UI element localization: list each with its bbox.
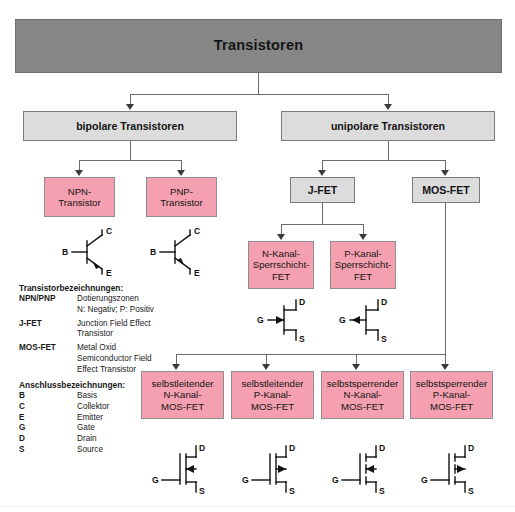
connector-bipolar-bus — [79, 160, 182, 161]
node-pnp-transistor-line2: Transistor — [160, 197, 202, 208]
p-channel-enhancement-mosfet-symbol: G D S — [421, 442, 485, 498]
node-p-kanal-sperrschicht-fet-line2: Sperrschicht- — [335, 259, 392, 270]
n-channel-enhancement-mosfet-symbol: G D S — [332, 442, 396, 498]
n-depl-mosfet-drain-label: D — [199, 443, 205, 453]
node-selbstsperrender-p-kanal-mos-fet[interactable]: selbstsperrender P-Kanal- MOS-FET — [410, 371, 493, 419]
node-j-fet-label: J-FET — [308, 184, 337, 197]
p-depl-mosfet-drain-label: D — [289, 443, 295, 453]
node-selbstsperrender-n-kanal-mos-fet[interactable]: selbstsperrender N-Kanal- MOS-FET — [321, 371, 404, 419]
arrow-to-n-kanal-sperrschicht-fet — [277, 234, 285, 240]
node-bipolare-transistoren-label: bipolare Transistoren — [76, 120, 184, 133]
node-pnp-transistor[interactable]: PNP- Transistor — [146, 177, 217, 217]
legend-pin-b-value: Basis — [77, 391, 179, 402]
p-jfet-gate-label: G — [339, 315, 346, 325]
arrow-to-npn — [75, 170, 83, 176]
legend-anschlussbezeichnungen-heading: Anschlussbezeichnungen: — [19, 380, 179, 390]
npn-transistor-symbol: B C E — [62, 222, 122, 282]
npn-collector-label: C — [106, 226, 112, 236]
node-unipolare-transistoren[interactable]: unipolare Transistoren — [281, 111, 495, 141]
arrow-to-selbstsperrender-p-kanal — [441, 364, 449, 370]
connector-jfet-child-down — [322, 203, 323, 225]
legend-row-j-fet-value: Junction Field Effect Transistor — [77, 319, 179, 341]
connector-root-bus — [130, 94, 389, 95]
legend-row-mos-fet-value: Metal Oxid Semiconductor Field Effect Tr… — [77, 343, 179, 375]
node-mos-fet-label: MOS-FET — [422, 184, 470, 197]
root-node-label: Transistoren — [214, 37, 303, 54]
legend-transistorbezeichnungen: Transistorbezeichnungen: NPN/PNP Dotieru… — [19, 283, 179, 376]
arrow-to-p-kanal-sperrschicht-fet — [359, 234, 367, 240]
legend-pin-d-value: Drain — [77, 434, 179, 445]
npn-base-label: B — [62, 247, 68, 257]
connector-mosfet-long-drop — [445, 203, 446, 355]
footer-divider — [0, 506, 515, 507]
legend-pin-e: E Emitter — [19, 413, 179, 424]
legend-pin-d: D Drain — [19, 434, 179, 445]
legend-row-j-fet: J-FET Junction Field Effect Transistor — [19, 319, 179, 341]
legend-pin-e-value: Emitter — [77, 413, 179, 424]
connector-mosfet-bus — [176, 354, 446, 355]
legend-pin-d-key: D — [19, 434, 77, 445]
n-jfet-gate-label: G — [257, 315, 264, 325]
node-selbstsperrender-n-kanal-mos-fet-line3: MOS-FET — [341, 401, 384, 412]
node-bipolare-transistoren[interactable]: bipolare Transistoren — [23, 111, 237, 141]
n-enh-mosfet-gate-label: G — [332, 475, 339, 485]
legend-row-j-fet-v1: Junction Field Effect — [77, 319, 179, 330]
node-selbstsperrender-p-kanal-mos-fet-line3: MOS-FET — [430, 401, 473, 412]
connector-unipolar-down — [388, 141, 389, 161]
connector-unipolar-bus — [322, 160, 446, 161]
legend-row-npn-pnp-v1: Dotierungszonen — [77, 294, 179, 305]
node-j-fet[interactable]: J-FET — [290, 177, 355, 203]
node-p-kanal-sperrschicht-fet-line3: FET — [354, 271, 372, 282]
legend-pin-c: C Collektor — [19, 402, 179, 413]
legend-pin-s: S Source — [19, 445, 179, 456]
legend-row-mos-fet-v3: Effect Transistor — [77, 365, 179, 376]
node-pnp-transistor-line1: PNP- — [170, 186, 193, 197]
node-unipolare-transistoren-label: unipolare Transistoren — [331, 120, 445, 133]
p-channel-jfet-symbol: G D S — [338, 296, 398, 346]
pnp-transistor-symbol: B C E — [150, 222, 210, 282]
node-n-kanal-sperrschicht-fet[interactable]: N-Kanal- Sperrschicht- FET — [248, 241, 314, 289]
node-selbstsperrender-n-kanal-mos-fet-line1: selbstsperrender — [327, 378, 398, 389]
legend-row-mos-fet-key: MOS-FET — [19, 343, 77, 375]
node-n-kanal-sperrschicht-fet-line1: N-Kanal- — [262, 248, 300, 259]
arrow-to-jfet — [318, 170, 326, 176]
n-enh-mosfet-source-label: S — [379, 486, 385, 496]
node-p-kanal-sperrschicht-fet[interactable]: P-Kanal- Sperrschicht- FET — [330, 241, 396, 289]
n-enh-mosfet-drain-label: D — [379, 443, 385, 453]
p-depl-mosfet-source-label: S — [289, 486, 295, 496]
node-n-kanal-sperrschicht-fet-line3: FET — [272, 271, 290, 282]
node-selbstleitender-p-kanal-mos-fet-line2: P-Kanal- — [254, 389, 291, 400]
arrow-to-selbstsperrender-n-kanal — [352, 364, 360, 370]
node-npn-transistor[interactable]: NPN- Transistor — [44, 177, 115, 217]
legend-pin-g-key: G — [19, 423, 77, 434]
pnp-emitter-label: E — [194, 268, 200, 278]
npn-emitter-label: E — [106, 268, 112, 278]
p-jfet-source-label: S — [381, 334, 387, 344]
legend-row-npn-pnp-key: NPN/PNP — [19, 294, 77, 316]
pnp-base-label: B — [150, 247, 156, 257]
legend-row-mos-fet-v2: Semiconductor Field — [77, 354, 179, 365]
legend-row-mos-fet: MOS-FET Metal Oxid Semiconductor Field E… — [19, 343, 179, 375]
arrow-to-pnp — [177, 170, 185, 176]
p-channel-depletion-mosfet-symbol: G D S — [242, 442, 306, 498]
legend-row-npn-pnp-v2: N: Negativ; P: Positiv — [77, 305, 179, 316]
legend-pin-c-key: C — [19, 402, 77, 413]
connector-root-down — [258, 73, 259, 95]
node-npn-transistor-line1: NPN- — [68, 186, 91, 197]
arrow-to-mosfet — [441, 170, 449, 176]
connector-jfet-child-bus — [281, 224, 364, 225]
legend-pin-s-key: S — [19, 445, 77, 456]
node-mos-fet[interactable]: MOS-FET — [412, 177, 480, 203]
arrow-to-bipolare — [126, 104, 134, 110]
pnp-collector-label: C — [194, 226, 200, 236]
transistor-classification-diagram: Transistoren bipolare Transistoren unipo… — [0, 0, 515, 512]
n-channel-jfet-symbol: G D S — [256, 296, 316, 346]
legend-pin-s-value: Source — [77, 445, 179, 456]
n-depl-mosfet-source-label: S — [199, 486, 205, 496]
node-selbstleitender-p-kanal-mos-fet-line1: selbstleitender — [242, 378, 304, 389]
arrow-to-unipolare — [384, 104, 392, 110]
node-selbstleitender-p-kanal-mos-fet[interactable]: selbstleitender P-Kanal- MOS-FET — [231, 371, 314, 419]
root-node-transistoren[interactable]: Transistoren — [15, 19, 502, 73]
legend-pin-g: G Gate — [19, 423, 179, 434]
legend-row-npn-pnp-value: Dotierungszonen N: Negativ; P: Positiv — [77, 294, 179, 316]
